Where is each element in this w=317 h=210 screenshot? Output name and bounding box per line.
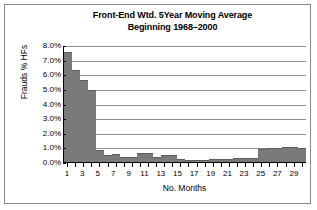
x-tick-mark — [124, 163, 125, 167]
x-tick — [152, 163, 160, 168]
x-tick — [249, 163, 257, 168]
bar — [290, 147, 298, 162]
x-tick-mark — [245, 163, 246, 167]
x-tick — [225, 163, 233, 168]
bar — [209, 159, 217, 162]
bar — [193, 160, 201, 162]
x-tick-label: 5 — [94, 169, 102, 180]
bar — [201, 160, 209, 162]
x-tick-mark — [237, 163, 238, 167]
x-tick-label: 29 — [290, 169, 299, 180]
plot-area — [63, 46, 306, 163]
x-tick — [298, 163, 306, 168]
chart-title: Front-End Wtd. 5Year Moving Average Begi… — [45, 10, 300, 33]
bar — [88, 90, 96, 162]
bar — [282, 147, 290, 162]
y-tick-mark — [63, 119, 66, 120]
x-tick — [184, 163, 192, 168]
bar — [145, 153, 153, 162]
y-tick-label: 3.0% — [27, 115, 61, 123]
x-tick-mark — [205, 163, 206, 167]
bar — [298, 148, 306, 162]
x-tick-label — [86, 169, 94, 180]
x-tick — [290, 163, 298, 168]
bar — [233, 158, 241, 162]
bar — [161, 155, 169, 162]
x-tick — [257, 163, 265, 168]
x-tick-mark — [302, 163, 303, 167]
x-tick — [217, 163, 225, 168]
x-tick — [193, 163, 201, 168]
x-tick — [120, 163, 128, 168]
x-axis-title: No. Months — [63, 183, 306, 193]
y-tick-label: 4.0% — [27, 101, 61, 109]
x-tick — [112, 163, 120, 168]
y-tick-mark — [63, 61, 66, 62]
chart-frame: Front-End Wtd. 5Year Moving Average Begi… — [4, 4, 311, 204]
x-tick — [233, 163, 241, 168]
bar-series — [64, 46, 306, 162]
bar — [137, 153, 145, 162]
x-axis-tick-labels: 1357911131517192123252729 — [63, 169, 306, 180]
x-tick-mark — [229, 163, 230, 167]
x-tick-label: 9 — [125, 169, 133, 180]
bar — [241, 158, 249, 162]
x-tick-label — [298, 169, 306, 180]
x-axis-ticks — [63, 163, 306, 168]
x-tick — [209, 163, 217, 168]
x-tick-label: 1 — [63, 169, 71, 180]
x-tick-label — [232, 169, 240, 180]
x-tick-mark — [91, 163, 92, 167]
x-tick-mark — [140, 163, 141, 167]
x-tick-mark — [197, 163, 198, 167]
x-tick-mark — [164, 163, 165, 167]
x-tick-label — [165, 169, 173, 180]
x-tick-mark — [75, 163, 76, 167]
bar — [72, 70, 80, 162]
bar — [112, 154, 120, 162]
x-tick-label: 23 — [240, 169, 249, 180]
x-tick-label: 11 — [140, 169, 148, 180]
x-tick-label: 3 — [78, 169, 86, 180]
x-tick-mark — [286, 163, 287, 167]
x-tick-label: 7 — [109, 169, 117, 180]
x-tick-mark — [269, 163, 270, 167]
bar — [96, 150, 104, 162]
y-axis-tick-labels: 8.0%7.0%6.0%5.0%4.0%3.0%2.0%1.0%0.0% — [25, 46, 61, 163]
y-tick-mark — [63, 163, 66, 164]
bar — [153, 157, 161, 162]
x-tick-mark — [67, 163, 68, 167]
x-tick-label — [182, 169, 190, 180]
x-tick-mark — [294, 163, 295, 167]
x-tick — [136, 163, 144, 168]
x-tick — [103, 163, 111, 168]
y-tick-mark — [63, 134, 66, 135]
x-tick-mark — [180, 163, 181, 167]
bar — [217, 159, 225, 162]
bar — [249, 158, 257, 162]
x-tick-mark — [108, 163, 109, 167]
x-tick-label — [133, 169, 141, 180]
x-tick — [282, 163, 290, 168]
x-tick-mark — [132, 163, 133, 167]
bar — [169, 155, 177, 162]
x-tick — [128, 163, 136, 168]
x-tick-label — [265, 169, 273, 180]
x-tick — [265, 163, 273, 168]
x-tick-label — [71, 169, 79, 180]
x-tick-label — [282, 169, 290, 180]
y-tick-mark — [63, 90, 66, 91]
bar — [80, 80, 88, 162]
x-tick — [71, 163, 79, 168]
x-tick-label — [117, 169, 125, 180]
x-tick-mark — [156, 163, 157, 167]
y-tick-label: 6.0% — [27, 71, 61, 79]
x-tick-label: 19 — [206, 169, 215, 180]
x-tick-mark — [213, 163, 214, 167]
y-tick-label: 0.0% — [27, 159, 61, 167]
x-tick — [144, 163, 152, 168]
bar — [129, 157, 137, 162]
chart-title-line1: Front-End Wtd. 5Year Moving Average — [93, 10, 252, 20]
y-tick-label: 8.0% — [27, 42, 61, 50]
x-tick-mark — [116, 163, 117, 167]
